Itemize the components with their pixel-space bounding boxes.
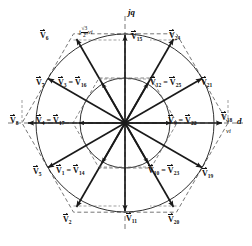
d-axis-label: d — [237, 117, 242, 126]
jq-axis-label: jq — [128, 8, 135, 17]
vector-label-v8: V8 — [10, 117, 19, 125]
vector-label-v3-v16: V3 = V16 — [58, 79, 86, 87]
vector-label-v2: V2 — [63, 216, 72, 224]
vector-v19 — [125, 123, 202, 168]
jq-magnitude-annotation: j√32vi — [79, 26, 93, 39]
vector-label-v21: V21 — [201, 79, 212, 87]
vector-label-v15: V15 — [131, 33, 142, 41]
annotation-vi: vi — [88, 28, 93, 36]
vector-label-v9-v22: V9 = V22 — [168, 117, 196, 125]
equals-sign: = — [67, 78, 76, 87]
vector-label-v24: V24 — [169, 32, 180, 40]
equals-sign: = — [159, 166, 168, 175]
vector-label-v10-v23: V10 = V23 — [148, 167, 179, 175]
vector-label-v11: V11 — [126, 215, 137, 223]
equals-sign: = — [45, 116, 54, 125]
vector-label-v5: V5 — [33, 168, 42, 176]
vector-label-v19: V19 — [202, 170, 213, 178]
vector-label-v7: V7 — [36, 79, 45, 87]
space-vector-diagram: jq d vi j√32vi V6 V15 V24 V7 V3 = V16 V1… — [0, 0, 252, 246]
vector-label-v12-v25: V12 = V25 — [150, 79, 181, 87]
vi-axis-label: vi — [226, 128, 231, 135]
vector-label-v20: V20 — [168, 216, 179, 224]
equals-sign: = — [177, 116, 186, 125]
vector-label-v18: V18 — [221, 114, 232, 122]
vector-label-v4-v17: V4 = V17 — [36, 117, 64, 125]
vector-v5 — [48, 123, 125, 168]
vector-label-v6: V6 — [40, 32, 49, 40]
equals-sign: = — [65, 166, 74, 175]
vector-label-v1-v14: V1 = V14 — [56, 167, 84, 175]
annotation-fraction: √32 — [81, 26, 88, 39]
equals-sign: = — [161, 78, 170, 87]
